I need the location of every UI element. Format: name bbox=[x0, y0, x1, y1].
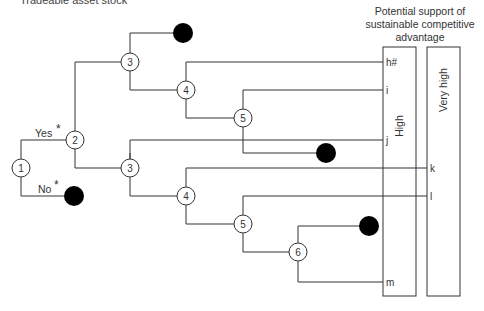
outcome-i: i bbox=[386, 85, 388, 96]
terminal-dot bbox=[316, 143, 336, 163]
high-column-label: High bbox=[393, 115, 405, 137]
node-label: 2 bbox=[72, 135, 78, 146]
node-label: 6 bbox=[295, 247, 301, 258]
no-asterisk: * bbox=[54, 178, 59, 192]
decision-tree: 1 2 3 4 5 3 4 5 6 Yes * No * h# i j k l … bbox=[0, 0, 484, 311]
node-label: 1 bbox=[18, 163, 24, 174]
node-label: 4 bbox=[183, 191, 189, 202]
tree-connectors bbox=[21, 33, 460, 296]
outcome-k: k bbox=[430, 163, 436, 174]
very-high-column-label: Very high bbox=[437, 68, 449, 112]
outcome-m: m bbox=[386, 277, 394, 288]
node-label: 5 bbox=[240, 113, 246, 124]
node-label: 3 bbox=[127, 57, 133, 68]
terminal-dot bbox=[64, 186, 84, 206]
yes-label: Yes bbox=[35, 127, 52, 139]
yes-asterisk: * bbox=[56, 122, 61, 136]
node-label: 3 bbox=[127, 163, 133, 174]
outcome-l: l bbox=[430, 191, 432, 202]
no-label: No bbox=[38, 183, 52, 195]
node-label: 5 bbox=[240, 219, 246, 230]
terminal-dot bbox=[359, 216, 379, 236]
node-label: 4 bbox=[183, 85, 189, 96]
outcome-j: j bbox=[385, 135, 388, 146]
terminal-dot bbox=[173, 23, 193, 43]
outcome-h: h# bbox=[386, 57, 398, 68]
